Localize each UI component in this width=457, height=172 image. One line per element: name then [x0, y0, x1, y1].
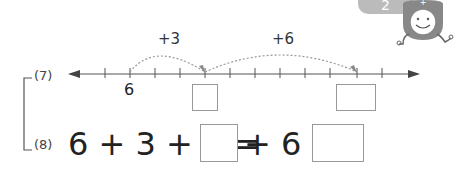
eq-num-2: 3	[136, 125, 156, 163]
eq-plus-1: +	[99, 125, 126, 163]
jump-label-1: +3	[158, 30, 180, 48]
eq-plus-3: +	[244, 125, 271, 163]
eq-plus-2: +	[166, 125, 193, 163]
problem-8-number: (8)	[34, 137, 52, 152]
answer-box-7a[interactable]	[192, 84, 218, 111]
answer-box-8b[interactable]	[312, 124, 364, 162]
jump-label-2: +6	[272, 30, 294, 48]
page-tab-number: 2	[381, 0, 390, 13]
eq-num-4: 6	[281, 125, 301, 163]
answer-box-8a[interactable]	[200, 124, 238, 162]
answer-box-7b[interactable]	[336, 84, 376, 111]
svg-text:+: +	[420, 0, 427, 7]
start-label: 6	[124, 80, 134, 99]
problem-7-number: (7)	[34, 68, 52, 83]
number-line	[60, 20, 430, 90]
eq-num-1: 6	[68, 125, 88, 163]
